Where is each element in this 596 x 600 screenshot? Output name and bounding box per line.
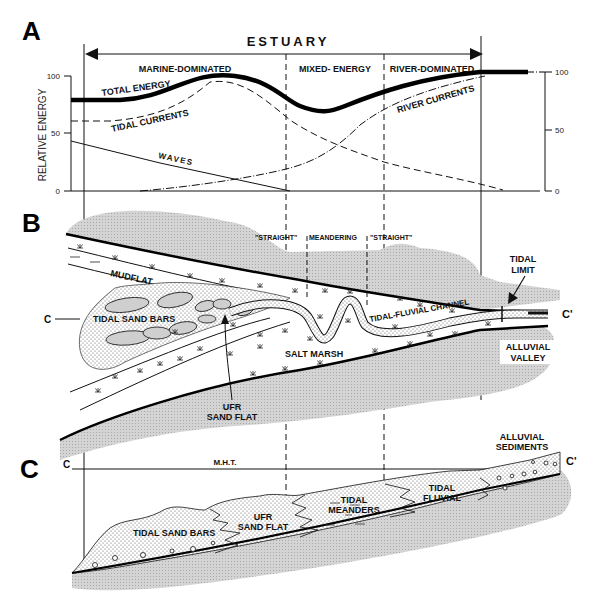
right-tick-100: 100: [555, 68, 569, 77]
right-tick-50: 50: [555, 126, 564, 135]
waves-label: WAVES: [158, 151, 195, 167]
ufr-label-c-line1: UFR: [254, 512, 273, 522]
estuary-label: ESTUARY: [247, 34, 330, 49]
left-tick-100: 100: [47, 72, 61, 81]
right-tick-0: 0: [555, 187, 560, 196]
panel-a-letter: A: [22, 16, 41, 46]
mht-label: M.H.T.: [213, 458, 236, 467]
salt-marsh-label: SALT MARSH: [285, 349, 343, 359]
alluvial-valley-label-line1: ALLUVIAL: [506, 342, 551, 352]
alluvial-sediments-label-line2: SEDIMENTS: [496, 442, 549, 452]
panel-b-letter: B: [22, 208, 41, 238]
panel-b: B MUDFLAT TIDAL SAND BARS C: [22, 208, 573, 460]
ufr-label-c-line2: SAND FLAT: [238, 522, 289, 532]
total-energy-label: TOTAL ENERGY: [101, 78, 171, 98]
estuary-diagram: A ESTUARY MARINE-DOMINATED MIXED- ENERGY…: [0, 0, 596, 600]
waves-curve: [71, 141, 290, 191]
channel-segment-straight-1: "STRAIGHT": [255, 234, 297, 241]
tidal-meanders-label-line1: TIDAL: [341, 495, 368, 505]
panel-c: C C M.H.T. TIDAL SAND BARS UFR SAND FLAT…: [20, 432, 577, 590]
left-tick-50: 50: [51, 129, 60, 138]
tidal-fluvial-label-line2: FLUVIAL: [423, 493, 461, 503]
section-c-label-b: C: [44, 314, 51, 325]
tidal-currents-label: TIDAL CURRENTS: [110, 108, 189, 134]
zone-marine-dominated: MARINE-DOMINATED: [139, 64, 232, 74]
arrow-left-icon: [85, 48, 98, 60]
tidal-fluvial-label-line1: TIDAL: [429, 483, 456, 493]
ufr-label-line1: UFR: [223, 402, 242, 412]
tidal-meanders-label-line2: MEANDERS: [328, 505, 380, 515]
tidal-limit-label-line1: TIDAL: [510, 254, 537, 264]
tidal-sand-bars-label-c: TIDAL SAND BARS: [133, 528, 215, 538]
tidal-limit-label-line2: LIMIT: [511, 265, 535, 275]
alluvial-valley-label-line2: VALLEY: [511, 353, 546, 363]
zone-mixed-energy: MIXED- ENERGY: [299, 64, 371, 74]
left-tick-0: 0: [56, 187, 61, 196]
channel-segment-meandering: MEANDERING: [309, 234, 357, 241]
alluvial-sediments-label-line1: ALLUVIAL: [500, 432, 545, 442]
section-c-prime-label-b: C': [562, 308, 573, 320]
section-c-label-c: C: [63, 459, 70, 470]
tidal-sand-bars-label: TIDAL SAND BARS: [93, 314, 175, 324]
section-c-prime-label-c: C': [566, 455, 577, 467]
ufr-label-line2: SAND FLAT: [207, 412, 258, 422]
y-axis-label: RELATIVE ENERGY: [37, 88, 48, 181]
panel-c-letter: C: [20, 454, 39, 484]
river-currents-label: RIVER CURRENTS: [396, 83, 476, 115]
channel-segment-straight-2: "STRAIGHT": [370, 234, 412, 241]
